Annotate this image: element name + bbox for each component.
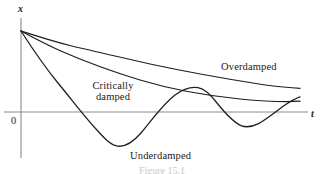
figure-caption: Figure 15.1 bbox=[0, 166, 324, 174]
critically-damped-curve-label: Critically damped bbox=[87, 80, 139, 103]
x-axis-label: t bbox=[311, 109, 314, 119]
critically-damped-label-line1: Critically bbox=[87, 80, 139, 91]
overdamped-curve bbox=[21, 31, 300, 88]
y-axis-label: x bbox=[18, 4, 23, 14]
underdamped-curve bbox=[21, 31, 300, 146]
critically-damped-label-line2: damped bbox=[87, 91, 139, 102]
damped-oscillation-figure: x t 0 Overdamped Critically damped Under… bbox=[0, 0, 324, 174]
underdamped-curve-label: Underdamped bbox=[130, 150, 191, 161]
origin-tick-label: 0 bbox=[11, 116, 16, 127]
plot-canvas bbox=[0, 0, 324, 174]
overdamped-curve-label: Overdamped bbox=[221, 61, 277, 72]
